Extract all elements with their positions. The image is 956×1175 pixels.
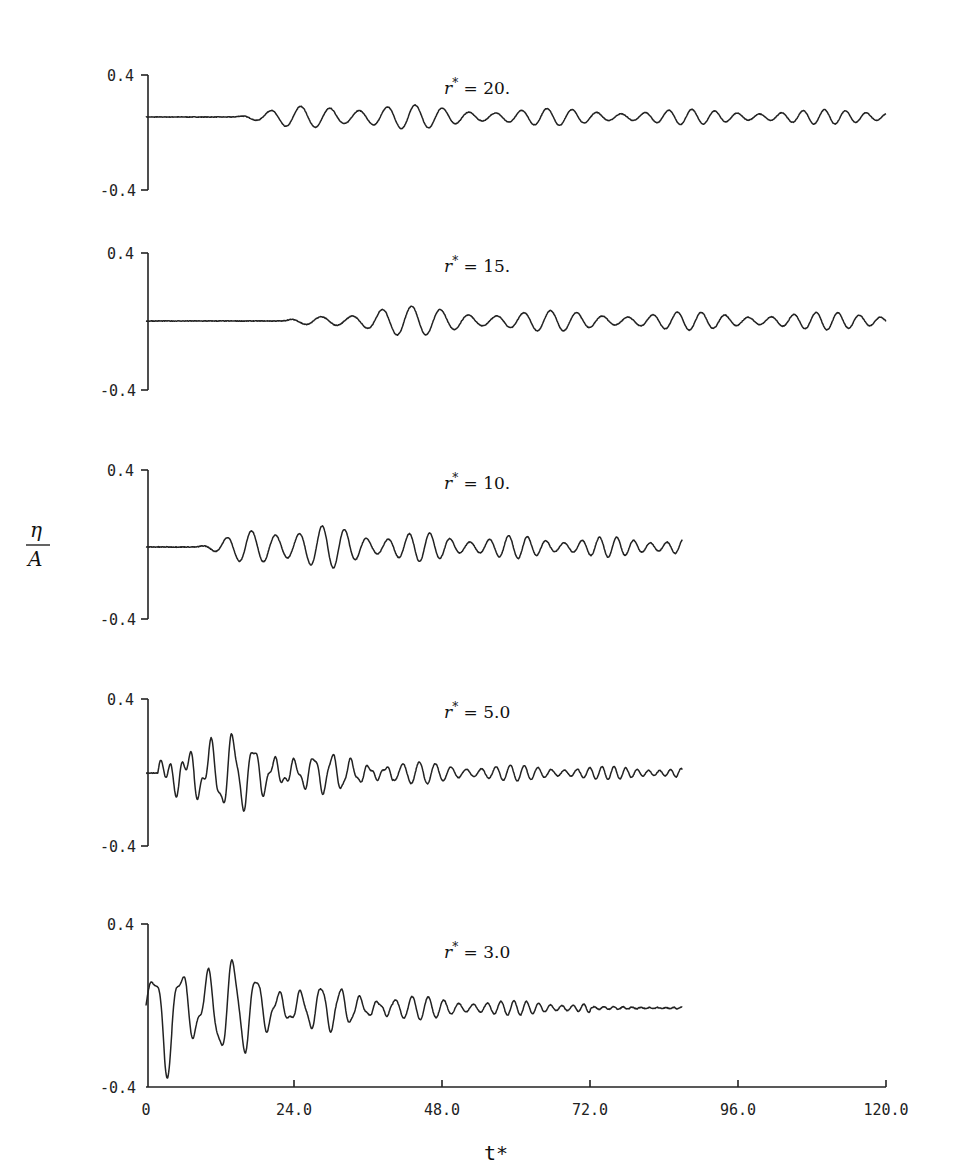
series-trace xyxy=(146,105,886,129)
panels: 0.4-0.4r* = 20.0.4-0.4r* = 15.0.4-0.4r* … xyxy=(100,67,886,1097)
x-tick-label: 72.0 xyxy=(572,1101,608,1119)
y-tick-label-bottom: -0.4 xyxy=(100,382,136,400)
panel-label: r* = 5.0 xyxy=(444,700,510,722)
y-label-numerator: η xyxy=(30,518,42,542)
y-tick-label-bottom: -0.4 xyxy=(100,838,136,856)
y-tick-label-bottom: -0.4 xyxy=(100,1079,136,1097)
y-label-denominator: A xyxy=(26,547,42,571)
x-axis-label: t* xyxy=(484,1141,508,1165)
panel-label: r* = 10. xyxy=(444,471,510,493)
y-axis-label: η A xyxy=(26,518,50,571)
panel-label: r* = 3.0 xyxy=(444,940,510,962)
y-tick-label-bottom: -0.4 xyxy=(100,611,136,629)
x-tick-label: 96.0 xyxy=(720,1101,756,1119)
x-axis: 024.048.072.096.0120.0 xyxy=(141,1080,908,1119)
series-trace xyxy=(146,960,682,1078)
panel-3: 0.4-0.4r* = 10. xyxy=(100,462,682,629)
panel-1: 0.4-0.4r* = 20. xyxy=(100,67,886,200)
y-tick-label-bottom: -0.4 xyxy=(100,182,136,200)
panel-4: 0.4-0.4r* = 5.0 xyxy=(100,691,682,856)
y-tick-label-top: 0.4 xyxy=(107,462,134,480)
x-tick-label: 0 xyxy=(141,1101,150,1119)
y-tick-label-top: 0.4 xyxy=(107,67,134,85)
y-tick-label-top: 0.4 xyxy=(107,691,134,709)
panel-2: 0.4-0.4r* = 15. xyxy=(100,245,886,400)
x-tick-label: 120.0 xyxy=(863,1101,908,1119)
x-tick-label: 48.0 xyxy=(424,1101,460,1119)
series-trace xyxy=(146,734,682,811)
figure: 0.4-0.4r* = 20.0.4-0.4r* = 15.0.4-0.4r* … xyxy=(0,0,956,1175)
panel-label: r* = 20. xyxy=(444,76,510,98)
y-tick-label-top: 0.4 xyxy=(107,916,134,934)
panel-5: 0.4-0.4r* = 3.0 xyxy=(100,916,682,1097)
series-trace xyxy=(146,526,682,568)
panel-label: r* = 15. xyxy=(444,254,510,276)
series-trace xyxy=(146,306,886,335)
x-tick-label: 24.0 xyxy=(276,1101,312,1119)
y-tick-label-top: 0.4 xyxy=(107,245,134,263)
